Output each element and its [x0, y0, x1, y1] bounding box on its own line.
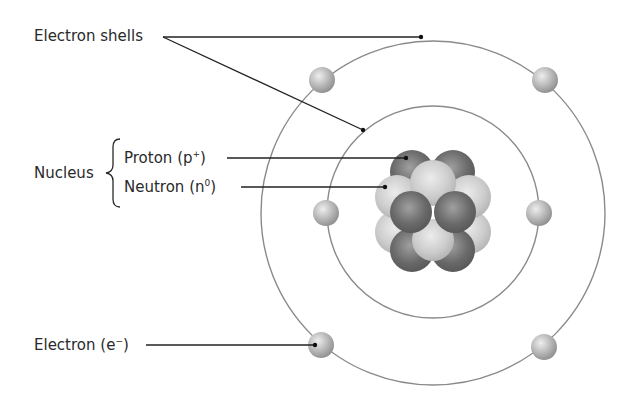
electrons — [308, 67, 558, 360]
label-electron-shells: Electron shells — [34, 27, 143, 45]
label-electron: Electron (e−) — [34, 336, 129, 354]
electron — [532, 67, 558, 93]
inner-electron-shell — [327, 106, 539, 318]
electron — [309, 67, 335, 93]
electron — [526, 200, 552, 226]
nucleus — [375, 150, 491, 272]
electron — [313, 200, 339, 226]
nucleus-brace — [106, 139, 120, 207]
label-nucleus: Nucleus — [34, 164, 94, 182]
proton — [390, 191, 432, 233]
label-proton: Proton (p+) — [124, 149, 206, 167]
electron — [531, 334, 557, 360]
label-neutron: Neutron (n0) — [124, 178, 216, 196]
outer-electron-shell — [261, 41, 605, 385]
atom-diagram: Electron shells Nucleus Proton (p+) Neut… — [0, 0, 625, 410]
proton — [434, 191, 476, 233]
